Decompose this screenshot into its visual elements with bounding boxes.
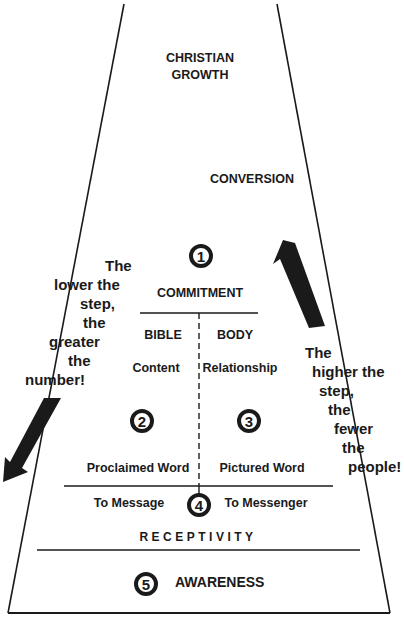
left-note-line: step, — [0, 294, 132, 313]
left-note-line: lower the — [0, 275, 132, 294]
right-note: The higher the step, the fewer the peopl… — [0, 343, 401, 476]
right-edge-line — [277, 4, 390, 613]
right-note-line: the — [0, 400, 401, 419]
receptivity-label: RECEPTIVITY — [139, 530, 256, 544]
bible-label: BIBLE — [144, 328, 182, 342]
right-note-line: The — [0, 343, 401, 362]
awareness-label: AWARENESS — [175, 574, 264, 590]
growth-label: GROWTH — [166, 67, 234, 84]
conversion-label: CONVERSION — [210, 172, 294, 186]
step-4-badge: 4 — [187, 493, 211, 517]
right-note-line: step, — [0, 381, 401, 400]
left-note-line: the — [0, 313, 132, 332]
left-note-line: The — [0, 256, 132, 275]
to-message-label: To Message — [94, 496, 165, 510]
step-1-badge: 1 — [189, 244, 213, 268]
step-5-badge: 5 — [134, 572, 158, 596]
up-left-arrow-icon — [273, 240, 325, 328]
right-note-line: people! — [0, 457, 401, 476]
body-label: BODY — [217, 328, 253, 342]
right-note-line: higher the — [0, 362, 401, 381]
commitment-label: COMMITMENT — [157, 286, 243, 300]
right-note-line: the — [0, 438, 401, 457]
right-note-line: fewer — [0, 419, 401, 438]
christian-label: CHRISTIAN — [166, 50, 234, 67]
christian-growth-label: CHRISTIAN GROWTH — [166, 50, 234, 84]
to-messenger-label: To Messenger — [224, 496, 307, 510]
